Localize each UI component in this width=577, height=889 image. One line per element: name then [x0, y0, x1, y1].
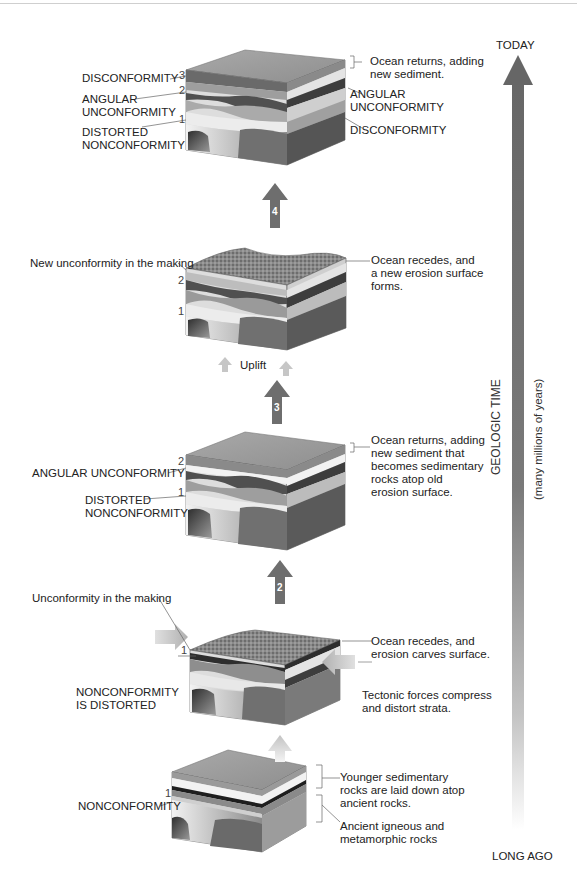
- top-right-label-ocean-returns: Ocean returns, adding new sediment.: [370, 55, 484, 81]
- stage-arrow-4-number: 4: [272, 206, 278, 217]
- bottom-layer-number-1: 1: [165, 787, 171, 799]
- uplift-label: Uplift: [240, 359, 266, 372]
- stage4-layer-number-2: 2: [178, 274, 184, 286]
- stage3-layer-number-1: 1: [178, 486, 184, 498]
- top-layer-number-2: 2: [179, 84, 185, 96]
- bottom-right-label-younger-sedimentary: Younger sedimentary rocks are laid down …: [340, 771, 465, 810]
- stage2-right-label-tectonic-forces: Tectonic forces compress and distort str…: [362, 689, 492, 715]
- block-stage-4: [186, 248, 346, 350]
- stage-arrow-2-number: 2: [277, 582, 283, 593]
- block-stage-3: [186, 432, 345, 550]
- bottom-right-label-ancient-rocks: Ancient igneous and metamorphic rocks: [340, 820, 444, 846]
- stage4-right-label-ocean-recedes: Ocean recedes, and a new erosion surface…: [371, 254, 484, 293]
- stage2-left-label-nonconformity-distorted: NONCONFORMITY IS DISTORTED: [76, 686, 179, 712]
- stage-arrow-3-number: 3: [274, 402, 280, 413]
- stage2-left-label-unconformity-in-making: Unconformity in the making: [32, 592, 171, 605]
- uplift-arrow-left: [218, 357, 232, 372]
- stage3-right-label-ocean-returns: Ocean returns, adding new sediment that …: [371, 434, 485, 499]
- uplift-arrow-right: [279, 361, 293, 376]
- stage2-right-label-ocean-recedes: Ocean recedes, and erosion carves surfac…: [371, 635, 490, 661]
- stage3-layer-number-2: 2: [178, 455, 184, 467]
- block-stage-bottom: [172, 750, 306, 852]
- uplift-arrow-bottom: [268, 735, 292, 762]
- top-layer-number-3: 3: [179, 69, 185, 81]
- top-left-label-disconformity: DISCONFORMITY: [82, 72, 178, 85]
- block-stage-top: [186, 50, 345, 165]
- top-right-label-angular-unconformity: ANGULAR UNCONFORMITY: [350, 88, 444, 114]
- stage3-left-label-distorted-nonconformity: DISTORTED NONCONFORMITY: [85, 494, 188, 520]
- top-left-label-angular-unconformity: ANGULAR UNCONFORMITY: [82, 93, 176, 119]
- top-right-label-disconformity: DISCONFORMITY: [350, 124, 446, 137]
- bottom-left-label-nonconformity: NONCONFORMITY: [78, 800, 181, 813]
- stage3-left-label-angular-unconformity: ANGULAR UNCONFORMITY: [32, 467, 185, 480]
- block-stage-2: [190, 630, 340, 725]
- stage4-left-label-new-unconformity: New unconformity in the making: [30, 257, 194, 270]
- stage2-layer-number-1: 1: [181, 644, 187, 656]
- stage4-layer-number-1: 1: [178, 305, 184, 317]
- top-layer-number-1: 1: [179, 113, 185, 125]
- top-left-label-distorted-nonconformity: DISTORTED NONCONFORMITY: [82, 126, 185, 152]
